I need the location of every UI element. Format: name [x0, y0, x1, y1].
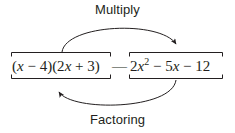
algebra-multiply-factor-diagram: Multiply Factoring (x − 4)(2x + 3) — 2x2… — [0, 0, 235, 133]
left-top-bracket — [12, 53, 111, 57]
factoring-arrow-path — [59, 80, 176, 105]
left-bottom-bracket — [12, 75, 111, 79]
multiply-arrow-path — [62, 28, 176, 52]
diagram-strokes — [0, 0, 235, 133]
right-top-bracket — [130, 53, 223, 57]
right-bottom-bracket — [130, 75, 223, 79]
